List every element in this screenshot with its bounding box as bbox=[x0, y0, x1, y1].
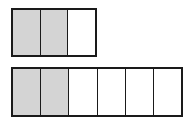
shaded-cell bbox=[41, 69, 69, 115]
top-bar bbox=[11, 8, 97, 57]
shaded-cell bbox=[41, 10, 69, 55]
unshaded-cell bbox=[69, 69, 97, 115]
unshaded-cell bbox=[154, 69, 181, 115]
unshaded-cell bbox=[98, 69, 126, 115]
unshaded-cell bbox=[126, 69, 154, 115]
unshaded-cell bbox=[68, 10, 95, 55]
bottom-bar bbox=[11, 67, 183, 117]
shaded-cell bbox=[13, 10, 41, 55]
shaded-cell bbox=[13, 69, 41, 115]
